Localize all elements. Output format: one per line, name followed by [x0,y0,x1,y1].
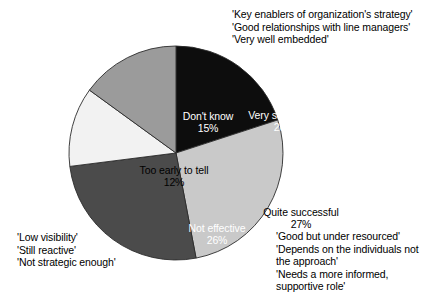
annotation-line: 'Key enablers of organization's strategy… [232,8,413,21]
pie-chart-figure: Very successful 20% Quite successful 27%… [0,0,443,308]
annotation-line: the approach' [276,255,419,268]
annotation-line: 'Depends on the individuals not [276,243,419,256]
annotation-line: supportive role' [276,280,419,293]
annotation-very-successful-quotes: 'Key enablers of organization's strategy… [232,8,413,46]
annotation-line: 'Good but under resourced' [276,230,419,243]
annotation-line: 'Good relationships with line managers' [232,21,413,34]
annotation-line: 'Needs a more informed, [276,268,419,281]
annotation-line: 'Not strategic enough' [17,256,116,269]
annotation-not-effective-quotes: 'Low visibility' 'Still reactive' 'Not s… [17,231,116,269]
annotation-line: 'Still reactive' [17,244,116,257]
annotation-line: 'Very well embedded' [232,33,413,46]
annotation-line: 'Low visibility' [17,231,116,244]
annotation-quite-successful-quotes: 'Good but under resourced' 'Depends on t… [276,230,419,293]
